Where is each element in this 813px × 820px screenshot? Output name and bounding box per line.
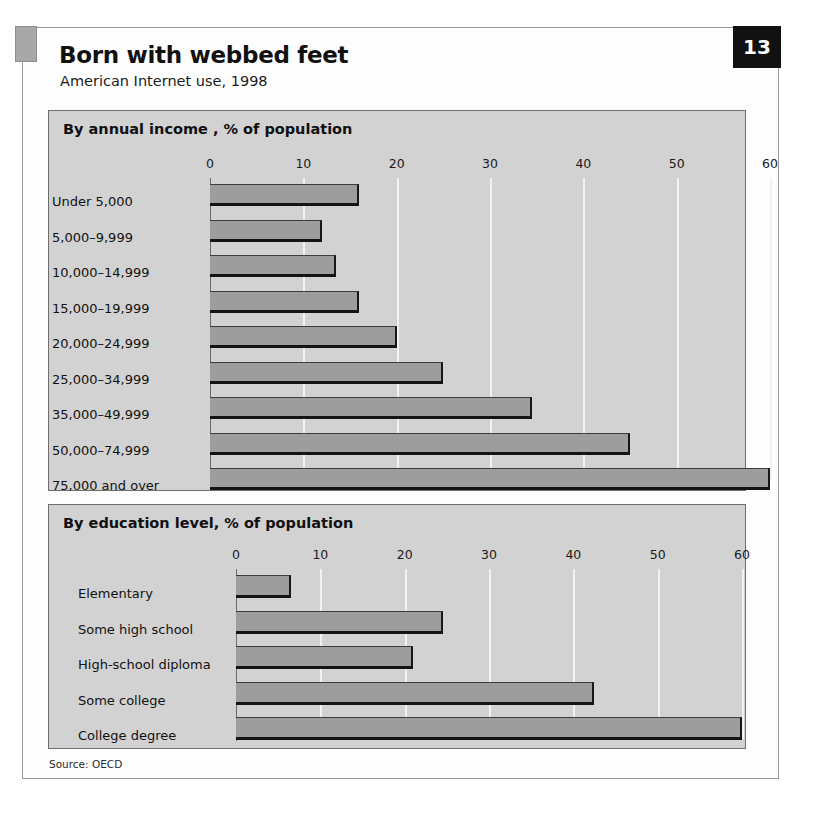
source-note: Source: OECD xyxy=(49,758,122,770)
x-axis-tick-label: 20 xyxy=(389,156,405,171)
category-label: 20,000–24,999 xyxy=(52,337,212,350)
x-axis-tick-label: 30 xyxy=(481,547,497,562)
x-axis-tick-label: 10 xyxy=(312,547,328,562)
category-label: Under 5,000 xyxy=(52,195,212,208)
plot-area-income: 0102030405060Under 5,0005,000–9,99910,00… xyxy=(210,156,770,486)
plot-area-education: 0102030405060ElementarySome high schoolH… xyxy=(236,547,742,745)
bar-row xyxy=(210,255,770,277)
chart-panel-income: By annual income , % of population 01020… xyxy=(48,110,746,491)
bar xyxy=(210,468,770,490)
bar xyxy=(210,291,359,313)
category-label: 10,000–14,999 xyxy=(52,266,212,279)
gridline xyxy=(770,178,772,480)
category-label: High-school diploma xyxy=(78,658,238,671)
bar-row xyxy=(210,468,770,490)
x-axis-tick-label: 40 xyxy=(575,156,591,171)
bar-row xyxy=(210,326,770,348)
bar xyxy=(210,220,322,242)
category-label: 75,000 and over xyxy=(52,479,212,492)
page-subtitle: American Internet use, 1998 xyxy=(60,73,268,89)
category-label: 50,000–74,999 xyxy=(52,444,212,457)
bar xyxy=(210,326,397,348)
category-label: Elementary xyxy=(78,587,238,600)
page-number-badge: 13 xyxy=(733,26,781,68)
bar-row xyxy=(210,433,770,455)
x-axis-tick-label: 40 xyxy=(565,547,581,562)
chart-title-income: By annual income , % of population xyxy=(63,121,352,137)
category-label: 25,000–34,999 xyxy=(52,373,212,386)
bar-row xyxy=(236,717,742,740)
bar-row xyxy=(210,362,770,384)
category-label: College degree xyxy=(78,729,238,742)
bar-row xyxy=(236,575,742,598)
bar xyxy=(236,682,594,705)
x-axis-tick-label: 50 xyxy=(669,156,685,171)
bar xyxy=(210,184,359,206)
chart-panel-education: By education level, % of population 0102… xyxy=(48,504,746,749)
bar-row xyxy=(236,646,742,669)
page-title: Born with webbed feet xyxy=(59,42,348,68)
bar-row xyxy=(236,611,742,634)
x-axis-tick-label: 20 xyxy=(397,547,413,562)
category-label: 35,000–49,999 xyxy=(52,408,212,421)
x-axis-tick-label: 50 xyxy=(650,547,666,562)
category-label: Some college xyxy=(78,694,238,707)
category-label: 15,000–19,999 xyxy=(52,302,212,315)
x-axis-tick-label: 30 xyxy=(482,156,498,171)
bar-group: Under 5,0005,000–9,99910,000–14,99915,00… xyxy=(210,184,770,482)
bar-row xyxy=(210,291,770,313)
bar-row xyxy=(210,220,770,242)
bar xyxy=(236,646,413,669)
x-axis-tick-label: 60 xyxy=(734,547,750,562)
bar-row xyxy=(210,184,770,206)
bar xyxy=(210,433,630,455)
category-label: Some high school xyxy=(78,623,238,636)
category-label: 5,000–9,999 xyxy=(52,231,212,244)
bar xyxy=(210,397,532,419)
bar xyxy=(210,362,443,384)
bar xyxy=(236,717,742,740)
chart-title-education: By education level, % of population xyxy=(63,515,353,531)
bar-row xyxy=(236,682,742,705)
page-frame: 13 Born with webbed feet American Intern… xyxy=(22,27,779,779)
bar-group: ElementarySome high schoolHigh-school di… xyxy=(236,575,742,741)
x-axis-tick-label: 10 xyxy=(295,156,311,171)
bar xyxy=(236,611,443,634)
x-axis-tick-label: 0 xyxy=(232,547,240,562)
x-axis-tick-label: 60 xyxy=(762,156,778,171)
bar xyxy=(210,255,336,277)
bar-row xyxy=(210,397,770,419)
gridline xyxy=(742,569,744,739)
corner-tab-marker xyxy=(15,26,37,62)
x-axis-tick-label: 0 xyxy=(206,156,214,171)
bar xyxy=(236,575,291,598)
